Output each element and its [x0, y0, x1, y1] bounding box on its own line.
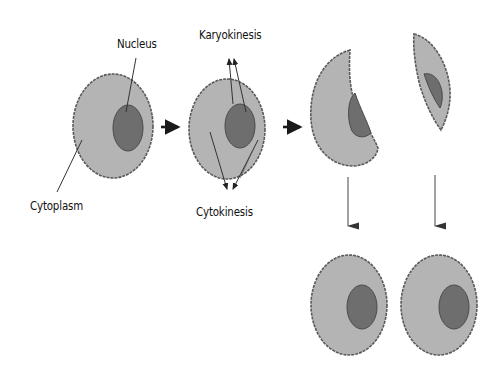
- dividing-cell: [189, 59, 265, 189]
- dividing-nucleus: [225, 104, 255, 148]
- cytoplasm-label: Cytoplasm: [30, 198, 83, 213]
- cytoplasm-pointer-line: [57, 140, 82, 192]
- split-cytoplasm-large: [311, 50, 378, 166]
- split-half-small: [414, 34, 450, 130]
- cell-division-diagram: Nucleus Cytoplasm Karyokinesis Cytokines…: [0, 0, 504, 391]
- daughter-cell-2: [401, 255, 477, 355]
- daughter-nucleus-1: [347, 285, 377, 329]
- daughter-cell-1: [311, 255, 387, 355]
- diagram-canvas: [0, 0, 504, 391]
- nucleus-label: Nucleus: [117, 36, 157, 51]
- split-nucleus-large: [349, 93, 371, 137]
- parent-nucleus: [113, 105, 143, 151]
- karyokinesis-label: Karyokinesis: [199, 27, 262, 42]
- cytokinesis-label: Cytokinesis: [196, 204, 253, 219]
- parent-cell: [57, 58, 153, 192]
- daughter-nucleus-2: [439, 285, 469, 329]
- split-half-large: [311, 50, 378, 166]
